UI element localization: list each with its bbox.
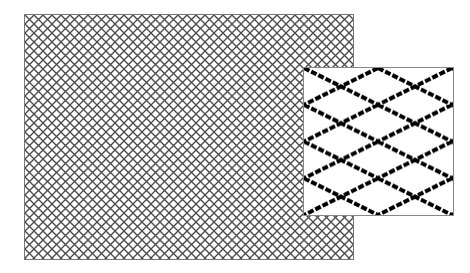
magnified-diamond-lattice xyxy=(304,68,453,215)
magnified-inset xyxy=(303,67,454,216)
